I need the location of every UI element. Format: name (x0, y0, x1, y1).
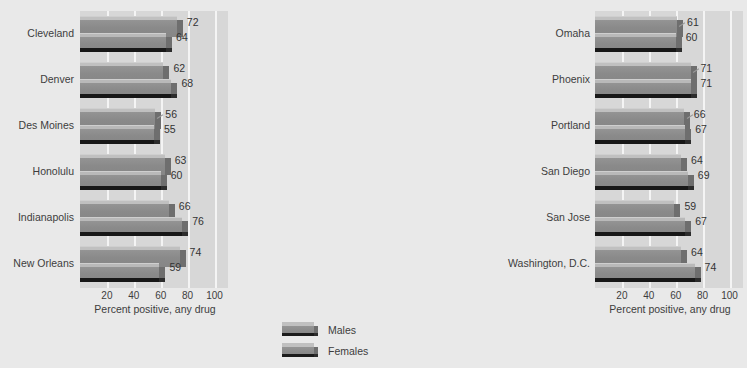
value-label-males: 63 (175, 154, 187, 166)
value-label-females: 67 (695, 123, 707, 135)
category-label: Washington, D.C. (506, 257, 590, 270)
bar-row: Honolulu6360 (0, 151, 258, 197)
bar-base-shadow (80, 186, 161, 190)
legend-label: Females (328, 344, 368, 358)
bar-rows-left: Cleveland7264Denver6268Des Moines5655Hon… (0, 11, 258, 288)
bar-base-shadow-cap (159, 278, 165, 282)
value-label-females: 60 (686, 31, 698, 43)
category-label: Denver (0, 73, 74, 86)
value-label-females: 60 (171, 169, 183, 181)
x-axis-left: 20406080100 (80, 289, 228, 303)
x-tick-40: 40 (643, 289, 654, 302)
bar-base-shadow-cap (154, 140, 160, 144)
category-label: San Jose (506, 211, 590, 224)
bar-base-shadow (595, 94, 691, 98)
value-label-females: 67 (695, 215, 707, 227)
legend-swatch (282, 343, 316, 358)
value-label-females: 71 (701, 77, 713, 89)
category-label: Des Moines (0, 119, 74, 132)
bar-base-shadow-cap (161, 186, 167, 190)
category-label: Indianapolis (0, 211, 74, 224)
value-label-males: 56 (165, 108, 177, 120)
category-label: Honolulu (0, 165, 74, 178)
bar-base-shadow-cap (171, 94, 177, 98)
bar-base-shadow (80, 278, 159, 282)
value-label-males: 64 (691, 154, 703, 166)
x-tick-60: 60 (155, 289, 166, 302)
gridline-100 (730, 11, 732, 288)
bar-base-shadow (80, 140, 154, 144)
value-label-males: 71 (701, 62, 713, 74)
value-label-males: 62 (173, 62, 185, 74)
value-label-males: 72 (187, 16, 199, 28)
x-tick-100: 100 (206, 289, 223, 302)
bar-base-shadow (80, 94, 171, 98)
bar-row: New Orleans7459 (0, 243, 258, 289)
bar-row: Phoenix7171 (258, 59, 516, 105)
bar-base-shadow-cap (691, 94, 697, 98)
bar-base-shadow-cap (166, 48, 172, 52)
bar-base-shadow-cap (685, 140, 691, 144)
bar-base-shadow (595, 140, 685, 144)
x-tick-80: 80 (697, 289, 708, 302)
bar-end-cap (691, 66, 697, 83)
bar-base-shadow-cap (695, 278, 701, 282)
bar-row: Des Moines5655 (0, 105, 258, 151)
bar-rows-right: Omaha6160Phoenix7171Portland6667San Dieg… (258, 11, 516, 288)
bar-row: San Diego6469 (258, 151, 516, 197)
x-tick-20: 20 (616, 289, 627, 302)
chart-panel-right: Omaha6160Phoenix7171Portland6667San Dieg… (258, 0, 516, 368)
bar-base-shadow (595, 278, 695, 282)
value-label-males: 66 (694, 108, 706, 120)
bar-base-shadow-cap (182, 232, 188, 236)
value-label-females: 59 (169, 261, 181, 273)
bar-row: Portland6667 (258, 105, 516, 151)
bar-base-shadow (595, 48, 676, 52)
category-label: Omaha (506, 27, 590, 40)
legend-label: Males (328, 323, 356, 337)
value-label-males: 59 (684, 200, 696, 212)
x-tick-80: 80 (182, 289, 193, 302)
value-label-females: 69 (698, 169, 710, 181)
x-axis-title-right: Percent positive, any drug (575, 303, 747, 315)
bar-base-shadow (80, 48, 166, 52)
x-tick-40: 40 (128, 289, 139, 302)
bar-row: Cleveland7264 (0, 13, 258, 59)
bar-base-shadow (80, 232, 182, 236)
category-label: New Orleans (0, 257, 74, 270)
value-label-males: 74 (190, 246, 202, 258)
x-axis-title-left: Percent positive, any drug (60, 303, 250, 315)
bar-row: San Jose5967 (258, 197, 516, 243)
bar-base-shadow-cap (685, 232, 691, 236)
category-label: Portland (506, 119, 590, 132)
value-label-females: 64 (176, 31, 188, 43)
value-label-females: 68 (181, 77, 193, 89)
bar-row: Indianapolis6676 (0, 197, 258, 243)
value-label-females: 76 (192, 215, 204, 227)
bar-base-shadow-cap (676, 48, 682, 52)
value-label-females: 55 (164, 123, 176, 135)
x-axis-right: 20406080100 (595, 289, 743, 303)
x-tick-60: 60 (670, 289, 681, 302)
value-label-males: 66 (179, 200, 191, 212)
bar-base-shadow-cap (688, 186, 694, 190)
x-tick-20: 20 (101, 289, 112, 302)
category-label: Cleveland (0, 27, 74, 40)
value-label-males: 64 (691, 246, 703, 258)
bar-base-shadow (595, 186, 688, 190)
category-label: Phoenix (506, 73, 590, 86)
value-label-males: 61 (687, 16, 699, 28)
legend-swatch (282, 322, 316, 337)
category-label: San Diego (506, 165, 590, 178)
bar-row: Washington, D.C.6474 (258, 243, 516, 289)
bar-row: Omaha6160 (258, 13, 516, 59)
bar-base-shadow (595, 232, 685, 236)
value-label-females: 74 (705, 261, 717, 273)
bar-row: Denver6268 (0, 59, 258, 105)
x-tick-100: 100 (721, 289, 738, 302)
chart-panel-left: Cleveland7264Denver6268Des Moines5655Hon… (0, 0, 258, 368)
